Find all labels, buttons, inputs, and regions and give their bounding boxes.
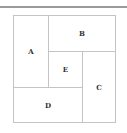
- region-b-label: B: [79, 29, 85, 38]
- region-e: E: [48, 51, 83, 88]
- region-d: D: [13, 87, 83, 123]
- region-a: A: [13, 15, 49, 88]
- region-b: B: [48, 15, 116, 52]
- top-rule: [0, 6, 127, 8]
- region-e-label: E: [63, 65, 68, 74]
- region-c: C: [82, 51, 116, 123]
- region-d-label: D: [45, 101, 51, 110]
- region-a-label: A: [28, 47, 33, 56]
- region-c-label: C: [96, 83, 102, 92]
